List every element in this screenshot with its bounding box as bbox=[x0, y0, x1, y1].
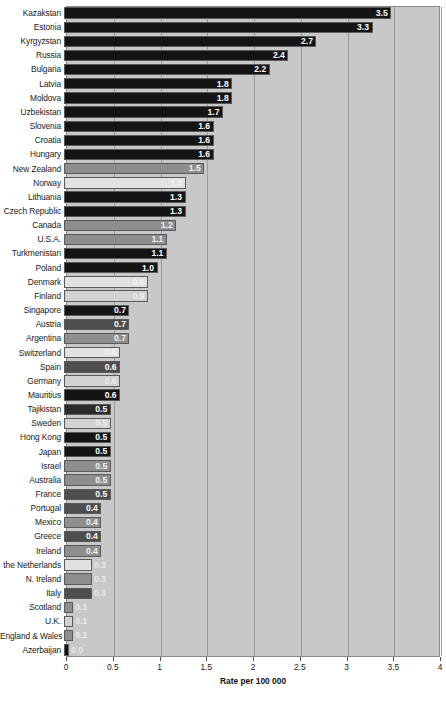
bar: 1.8 bbox=[64, 78, 232, 89]
bar-value-label: 0.4 bbox=[86, 547, 100, 556]
bar: 0.5 bbox=[64, 489, 111, 500]
bar-row: New Zealand1.5 bbox=[0, 162, 446, 176]
category-label: N. Ireland bbox=[0, 575, 64, 583]
category-label: Kyrgyzstan bbox=[0, 37, 64, 45]
bar-row: Latvia1.8 bbox=[0, 77, 446, 91]
bar-value-label: 1.7 bbox=[207, 108, 221, 117]
bar-value-label: 1.2 bbox=[161, 221, 175, 230]
category-label: Croatia bbox=[0, 136, 64, 144]
bar: 0.7 bbox=[64, 305, 129, 316]
bar-row: Italy0.3 bbox=[0, 586, 446, 600]
bar-track: 0.6 bbox=[64, 346, 446, 360]
x-tick-label: 1.5 bbox=[200, 662, 212, 672]
bar-row: Israel0.5 bbox=[0, 459, 446, 473]
bar: 2.7 bbox=[64, 36, 316, 47]
bar-value-label: 1.6 bbox=[198, 122, 212, 131]
category-label: Denmark bbox=[0, 278, 64, 286]
bar-value-label: 1.1 bbox=[151, 235, 165, 244]
bar: 0.4 bbox=[64, 517, 101, 528]
bar-row: Ireland0.4 bbox=[0, 544, 446, 558]
bar-track: 0.6 bbox=[64, 388, 446, 402]
bar-value-label: 0.0 bbox=[71, 646, 85, 655]
bar-rows: Kazakstan3.5Estonia3.3Kyrgyzstan2.7Russi… bbox=[0, 6, 446, 657]
bar-track: 1.8 bbox=[64, 77, 446, 91]
bar: 1.0 bbox=[64, 262, 158, 273]
category-label: Uzbekistan bbox=[0, 108, 64, 116]
bar-track: 2.7 bbox=[64, 34, 446, 48]
category-label: Tajikistan bbox=[0, 405, 64, 413]
category-label: Austria bbox=[0, 320, 64, 328]
bar-row: Mexico0.4 bbox=[0, 515, 446, 529]
category-label: Germany bbox=[0, 377, 64, 385]
bar-row: Switzerland0.6 bbox=[0, 346, 446, 360]
bar-row: Bulgaria2.2 bbox=[0, 63, 446, 77]
bar-value-label: 1.3 bbox=[170, 179, 184, 188]
bar-value-label: 0.9 bbox=[133, 278, 147, 287]
category-label: Canada bbox=[0, 221, 64, 229]
category-label: Greece bbox=[0, 532, 64, 540]
bar: 1.3 bbox=[64, 177, 186, 188]
bar-row: U.S.A.1.1 bbox=[0, 232, 446, 246]
x-tick-label: 0.5 bbox=[107, 662, 119, 672]
bar-track: 0.1 bbox=[64, 629, 446, 643]
category-label: France bbox=[0, 490, 64, 498]
bar: 0.4 bbox=[64, 531, 101, 542]
bar-track: 1.3 bbox=[64, 176, 446, 190]
bar: 0.7 bbox=[64, 333, 129, 344]
bar: 0.5 bbox=[64, 446, 111, 457]
bar-track: 1.3 bbox=[64, 190, 446, 204]
bar-value-label: 1.3 bbox=[170, 207, 184, 216]
category-label: Poland bbox=[0, 264, 64, 272]
bar: 0.0 bbox=[64, 644, 69, 655]
bar-value-label: 1.6 bbox=[198, 136, 212, 145]
bar-track: 0.9 bbox=[64, 289, 446, 303]
bar-value-label: 0.6 bbox=[105, 363, 119, 372]
bar-track: 1.5 bbox=[64, 162, 446, 176]
bar-track: 0.5 bbox=[64, 431, 446, 445]
bar: 0.3 bbox=[64, 573, 92, 584]
category-label: Argentina bbox=[0, 334, 64, 342]
bar-row: Moldova1.8 bbox=[0, 91, 446, 105]
x-tick bbox=[300, 657, 301, 661]
bar-value-label: 0.5 bbox=[95, 419, 109, 428]
bar: 1.1 bbox=[64, 234, 167, 245]
bar: 0.5 bbox=[64, 418, 111, 429]
x-axis: 00.511.522.533.54 bbox=[66, 657, 440, 677]
bar-value-label: 0.5 bbox=[95, 433, 109, 442]
category-label: Hungary bbox=[0, 150, 64, 158]
bar-row: N. Ireland0.3 bbox=[0, 572, 446, 586]
bar-row: Spain0.6 bbox=[0, 360, 446, 374]
x-tick bbox=[160, 657, 161, 661]
bar-track: 0.4 bbox=[64, 501, 446, 515]
x-tick bbox=[253, 657, 254, 661]
category-label: Israel bbox=[0, 462, 64, 470]
bar-row: Scotland0.1 bbox=[0, 600, 446, 614]
bar-value-label: 1.3 bbox=[170, 193, 184, 202]
category-label: U.S.A. bbox=[0, 235, 64, 243]
bar-value-label: 3.5 bbox=[376, 9, 390, 18]
bar: 1.3 bbox=[64, 206, 186, 217]
bar: 0.6 bbox=[64, 361, 120, 372]
bar-row: Kyrgyzstan2.7 bbox=[0, 34, 446, 48]
bar: 3.5 bbox=[64, 7, 391, 18]
bar: 1.6 bbox=[64, 121, 214, 132]
bar-row: Germany0.6 bbox=[0, 374, 446, 388]
bar-row: Estonia3.3 bbox=[0, 20, 446, 34]
bar-row: Tajikistan0.5 bbox=[0, 402, 446, 416]
bar-value-label: 1.8 bbox=[217, 94, 231, 103]
x-tick bbox=[113, 657, 114, 661]
bar-track: 0.4 bbox=[64, 515, 446, 529]
category-label: Latvia bbox=[0, 80, 64, 88]
bar-track: 0.5 bbox=[64, 487, 446, 501]
bar-track: 1.1 bbox=[64, 232, 446, 246]
bar: 1.6 bbox=[64, 135, 214, 146]
bar-value-label: 3.3 bbox=[357, 23, 371, 32]
bar-row: Denmark0.9 bbox=[0, 275, 446, 289]
bar-value-label: 0.6 bbox=[105, 377, 119, 386]
bar-value-label: 2.7 bbox=[301, 37, 315, 46]
bar-row: the Netherlands0.3 bbox=[0, 558, 446, 572]
category-label: Spain bbox=[0, 363, 64, 371]
bar-row: Hungary1.6 bbox=[0, 148, 446, 162]
bar-value-label: 0.4 bbox=[86, 504, 100, 513]
category-label: Hong Kong bbox=[0, 433, 64, 441]
